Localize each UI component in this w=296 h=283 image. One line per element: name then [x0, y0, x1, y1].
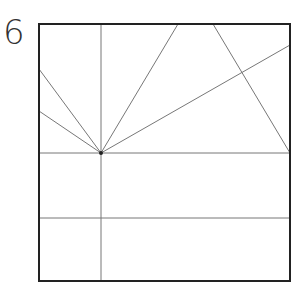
crease-pattern-diagram	[0, 0, 296, 283]
ray-right	[101, 45, 290, 153]
ray-top	[101, 24, 178, 153]
ray-left-lower	[39, 111, 101, 153]
diagonal-top-to-right	[213, 24, 290, 153]
hub-point	[99, 151, 103, 155]
ray-left-upper	[39, 69, 101, 153]
crease-lines	[39, 24, 290, 281]
